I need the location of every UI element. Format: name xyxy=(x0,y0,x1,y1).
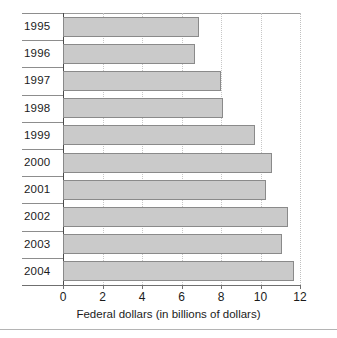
tick-mark-10 xyxy=(261,285,262,289)
bar-chart: 1995199619971998199920002001200220032004… xyxy=(0,0,337,338)
bar-1995 xyxy=(63,17,199,37)
row-separator xyxy=(22,203,63,204)
bar-2001 xyxy=(63,180,266,200)
tick-mark-8 xyxy=(221,285,222,289)
bar-1996 xyxy=(63,44,195,64)
tick-mark-6 xyxy=(182,285,183,289)
bar-2004 xyxy=(63,261,294,281)
bar-1997 xyxy=(63,71,221,91)
bar-row: 2003 xyxy=(0,231,337,258)
row-separator xyxy=(22,149,63,150)
category-label-2003: 2003 xyxy=(24,236,62,252)
bar-row: 1999 xyxy=(0,122,337,149)
tick-label-8: 8 xyxy=(206,290,236,304)
category-label-1998: 1998 xyxy=(24,100,62,116)
tick-label-2: 2 xyxy=(88,290,118,304)
bar-1998 xyxy=(63,98,223,118)
row-separator xyxy=(22,95,63,96)
category-label-1996: 1996 xyxy=(24,45,62,61)
category-label-1999: 1999 xyxy=(24,127,62,143)
bar-2003 xyxy=(63,234,282,254)
plot-right-gridline xyxy=(300,13,301,285)
bar-row: 2004 xyxy=(0,258,337,285)
row-separator xyxy=(22,258,63,259)
bar-row: 1998 xyxy=(0,95,337,122)
category-label-2002: 2002 xyxy=(24,208,62,224)
tick-label-10: 10 xyxy=(246,290,276,304)
category-label-2000: 2000 xyxy=(24,154,62,170)
tick-label-12: 12 xyxy=(285,290,315,304)
tick-label-0: 0 xyxy=(48,290,78,304)
category-label-1997: 1997 xyxy=(24,72,62,88)
bar-row: 2002 xyxy=(0,203,337,230)
bar-row: 1997 xyxy=(0,67,337,94)
bar-row: 1996 xyxy=(0,40,337,67)
bar-2002 xyxy=(63,207,288,227)
tick-mark-4 xyxy=(142,285,143,289)
bar-row: 2000 xyxy=(0,149,337,176)
tick-mark-2 xyxy=(103,285,104,289)
category-label-2001: 2001 xyxy=(24,181,62,197)
x-axis-title: Federal dollars (in billions of dollars) xyxy=(0,308,337,320)
bar-row: 1995 xyxy=(0,13,337,40)
tick-mark-12 xyxy=(300,285,301,289)
bar-rows: 1995199619971998199920002001200220032004 xyxy=(0,13,337,285)
row-separator xyxy=(22,40,63,41)
tick-label-6: 6 xyxy=(167,290,197,304)
bar-1999 xyxy=(63,125,255,145)
row-separator xyxy=(22,13,63,14)
category-label-2004: 2004 xyxy=(24,263,62,279)
bar-row: 2001 xyxy=(0,176,337,203)
category-label-1995: 1995 xyxy=(24,18,62,34)
tick-label-4: 4 xyxy=(127,290,157,304)
row-separator xyxy=(22,122,63,123)
tick-mark-0 xyxy=(63,285,64,289)
row-separator xyxy=(22,67,63,68)
bar-2000 xyxy=(63,153,272,173)
row-separator xyxy=(22,176,63,177)
page-divider-rule xyxy=(0,329,337,330)
row-separator xyxy=(22,231,63,232)
